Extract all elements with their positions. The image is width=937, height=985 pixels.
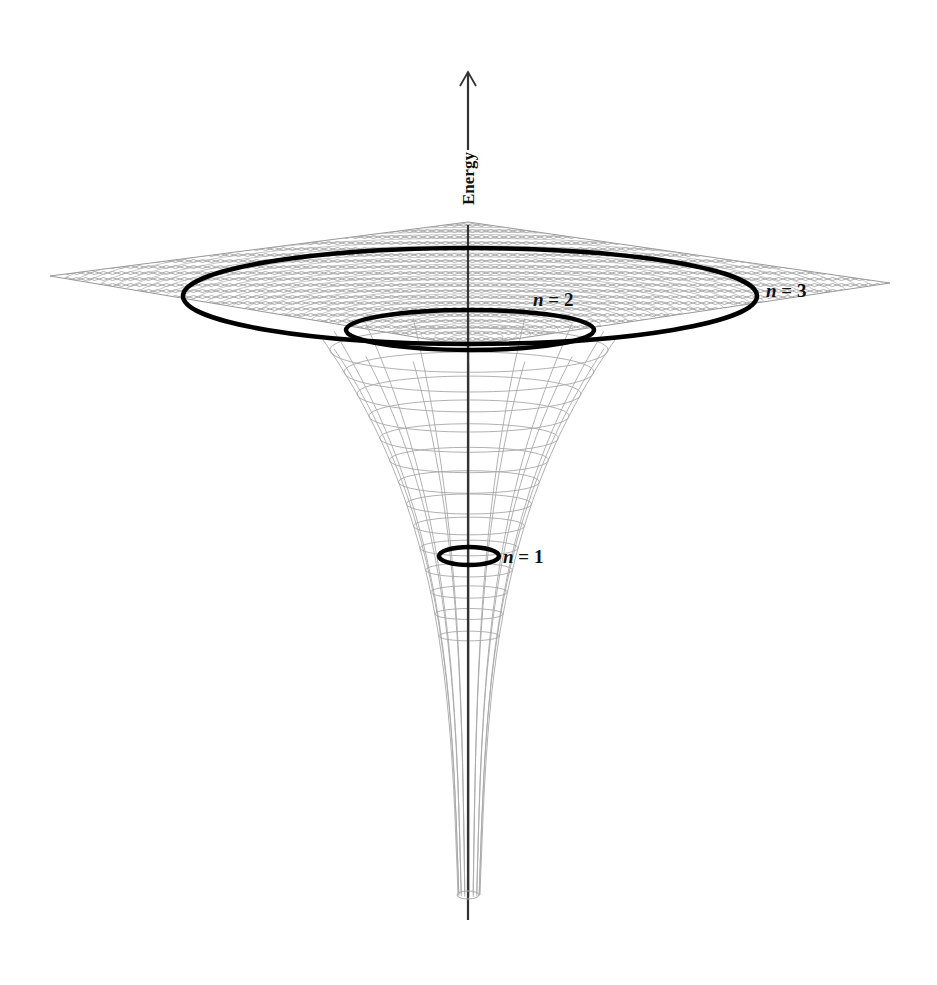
label-n2: n = 2 [533,289,573,310]
energy-axis-label: Energy [459,152,478,205]
orbits [183,248,757,899]
label-n1: n = 1 [503,546,543,567]
potential-well-diagram: Energy n = 1 n = 2 n = 3 [0,0,937,985]
label-n3: n = 3 [766,280,806,301]
